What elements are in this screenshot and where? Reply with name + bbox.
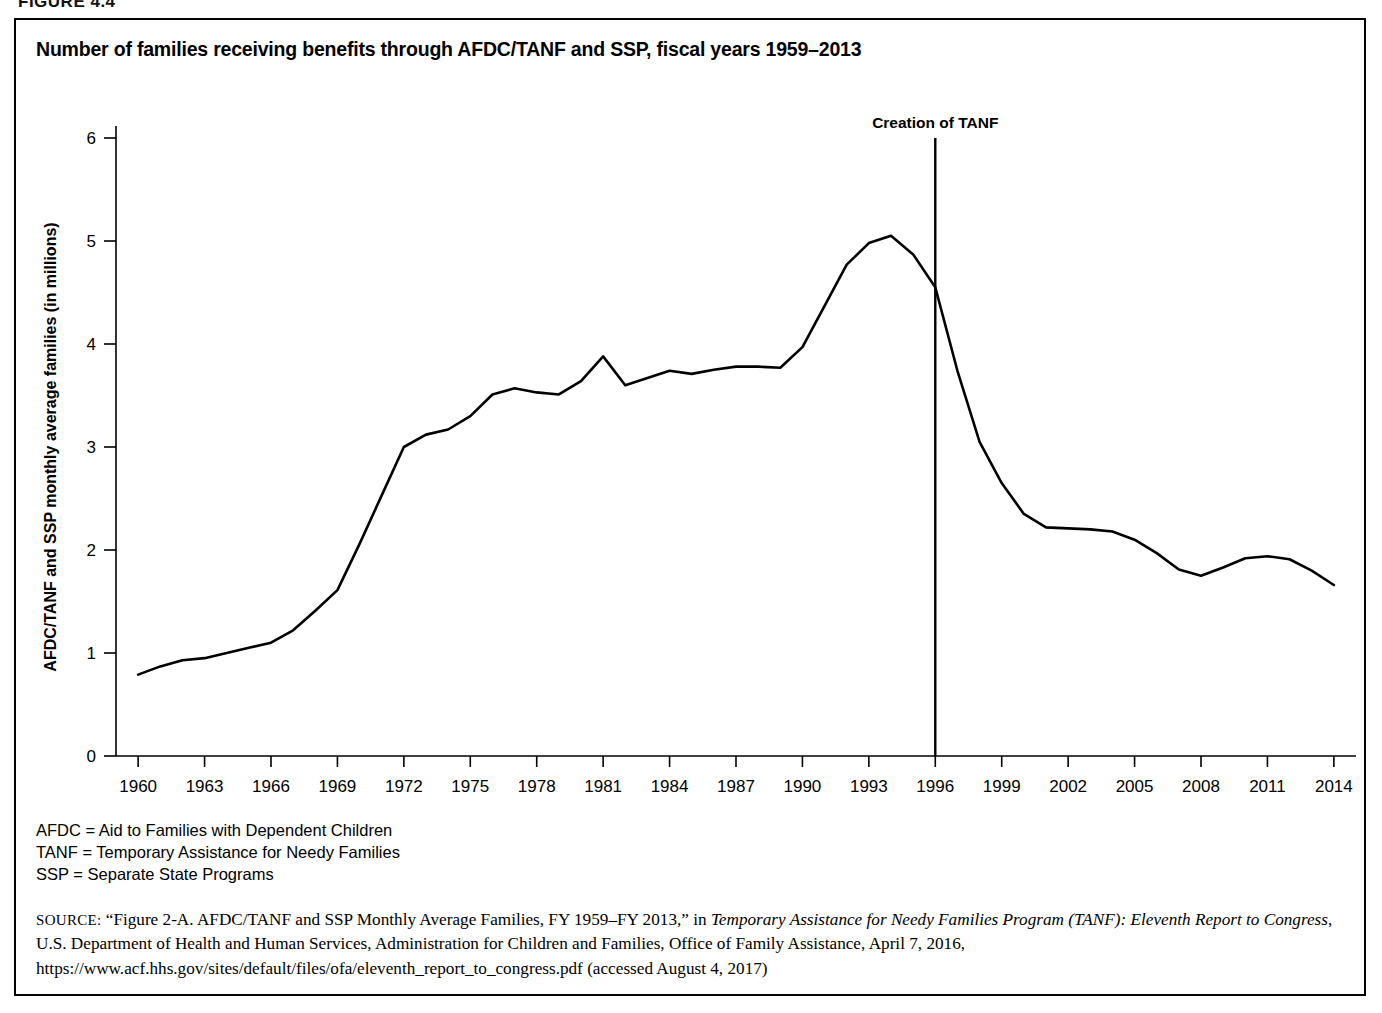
y-tick-label: 4: [87, 335, 96, 354]
x-tick-label: 1993: [850, 777, 888, 796]
y-axis-title: AFDC/TANF and SSP monthly average famili…: [42, 222, 59, 671]
x-tick-label: 1972: [385, 777, 423, 796]
y-tick-label: 3: [87, 438, 96, 457]
line-chart-svg: 0123456 19601963196619691972197519781981…: [16, 100, 1364, 800]
x-tick-label: 1999: [983, 777, 1021, 796]
x-tick-label: 1963: [186, 777, 224, 796]
y-tick-label: 0: [87, 747, 96, 766]
abbreviation-afdc: AFDC = Aid to Families with Dependent Ch…: [36, 820, 400, 842]
abbreviation-tanf: TANF = Temporary Assistance for Needy Fa…: [36, 842, 400, 864]
source-title-italic: Temporary Assistance for Needy Families …: [711, 910, 1328, 929]
y-axis: 0123456: [87, 126, 116, 766]
abbreviation-ssp: SSP = Separate State Programs: [36, 864, 400, 886]
figure-number: FIGURE 4.4: [18, 0, 116, 12]
x-tick-label: 1966: [252, 777, 290, 796]
x-tick-label: 2002: [1049, 777, 1087, 796]
data-series-afdc-tanf-ssp: [138, 236, 1334, 675]
x-tick-label: 1990: [784, 777, 822, 796]
y-tick-label: 1: [87, 644, 96, 663]
source-citation: SOURCE: “Figure 2-A. AFDC/TANF and SSP M…: [36, 908, 1341, 981]
x-tick-label: 1984: [651, 777, 689, 796]
axis-titles: Fiscal yearsAFDC/TANF and SSP monthly av…: [42, 222, 782, 800]
series-line: [138, 236, 1334, 675]
x-tick-label: 1969: [319, 777, 357, 796]
annotation-creation-of-tanf: Creation of TANF: [872, 114, 998, 756]
x-tick-label: 1975: [451, 777, 489, 796]
y-tick-label: 2: [87, 541, 96, 560]
y-tick-label: 5: [87, 232, 96, 251]
source-part-one: “Figure 2-A. AFDC/TANF and SSP Monthly A…: [101, 910, 710, 929]
x-tick-label: 1960: [119, 777, 157, 796]
x-axis: 1960196319661969197219751978198119841987…: [116, 756, 1356, 796]
x-tick-label: 1996: [916, 777, 954, 796]
x-tick-label: 1987: [717, 777, 755, 796]
x-tick-label: 2008: [1182, 777, 1220, 796]
y-tick-label: 6: [87, 129, 96, 148]
abbreviation-legend: AFDC = Aid to Families with Dependent Ch…: [36, 820, 400, 886]
annotation-label: Creation of TANF: [872, 114, 998, 131]
x-tick-label: 2011: [1249, 777, 1286, 796]
chart-title: Number of families receiving benefits th…: [36, 38, 861, 61]
x-tick-label: 1978: [518, 777, 556, 796]
chart-plot-area: 0123456 19601963196619691972197519781981…: [16, 100, 1364, 800]
x-tick-label: 2005: [1116, 777, 1154, 796]
x-tick-label: 2014: [1315, 777, 1353, 796]
figure-container: Number of families receiving benefits th…: [14, 18, 1366, 996]
source-label: SOURCE:: [36, 912, 101, 928]
x-tick-label: 1981: [584, 777, 622, 796]
